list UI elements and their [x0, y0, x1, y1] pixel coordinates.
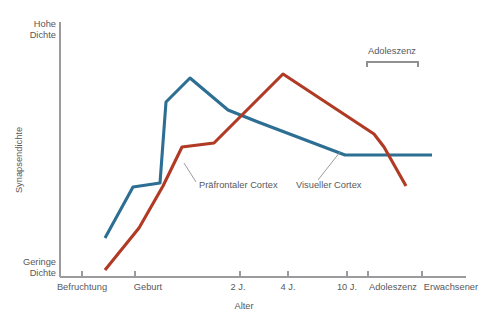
series-line-visueller-cortex [105, 78, 432, 238]
praefrontaler-cortex-label: Präfrontaler Cortex [199, 180, 278, 190]
praefrontaler-cortex-label-leader [184, 163, 196, 182]
adoleszenz-annotation-label: Adoleszenz [368, 46, 416, 56]
series-label-leader-lines [184, 152, 340, 182]
adoleszenz-bracket [367, 62, 418, 67]
visueller-cortex-label-leader [318, 152, 340, 180]
x-axis-tick-label: 2 J. [231, 282, 246, 292]
y-axis-low-label-line2: Dichte [30, 268, 56, 278]
x-axis-tick-label: 4 J. [281, 282, 296, 292]
x-axis-tick-label: Adoleszenz [369, 282, 417, 292]
synapse-density-chart: Hohe Dichte Geringe Dichte Synapsendicht… [0, 0, 493, 328]
chart-canvas: Hohe Dichte Geringe Dichte Synapsendicht… [0, 0, 493, 328]
x-axis-tick-label: Erwachsener [424, 282, 478, 292]
y-axis-low-label-line1: Geringe [23, 257, 56, 267]
y-axis-high-label-line1: Hohe [34, 19, 56, 29]
adoleszenz-bracket-path [367, 62, 418, 67]
visueller-cortex-label: Visueller Cortex [296, 180, 362, 190]
x-axis-tick-labels: BefruchtungGeburt2 J.4 J.10 J.Adoleszenz… [57, 282, 478, 292]
x-axis-tick-label: Geburt [134, 282, 163, 292]
x-axis-tick-label: 10 J. [337, 282, 357, 292]
x-axis-tick-marks [82, 271, 422, 277]
y-axis-high-label-line2: Dichte [30, 30, 56, 40]
series-line-praefrontaler-cortex [105, 74, 406, 270]
x-axis-title: Alter [234, 301, 253, 311]
x-axis-tick-label: Befruchtung [57, 282, 107, 292]
y-axis-title: Synapsendichte [14, 127, 24, 193]
